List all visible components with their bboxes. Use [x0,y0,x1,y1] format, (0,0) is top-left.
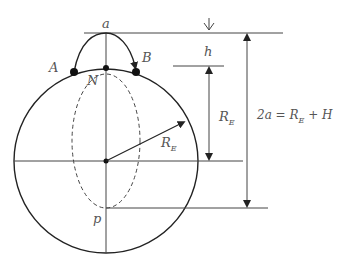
point-b-dot [132,68,140,76]
orbit-diagram: a A B N p h RE RE 2a = RE + H [0,0,337,268]
re-arrow-down-head [205,153,213,161]
point-n-dot [103,65,109,71]
label-p: p [93,211,102,226]
major-arrow-down-head [243,200,251,208]
label-B: B [141,50,152,65]
label-re-radius: RE [160,135,177,153]
point-a-dot [70,68,78,76]
equation-label: 2a = RE + H [256,108,333,125]
label-h: h [204,44,212,59]
label-a: a [102,16,110,31]
re-arrow-up-head [205,66,213,74]
label-re-vertical: RE [218,109,235,127]
label-A: A [48,60,58,75]
major-arrow-up-head [243,33,251,41]
label-N: N [86,73,99,88]
